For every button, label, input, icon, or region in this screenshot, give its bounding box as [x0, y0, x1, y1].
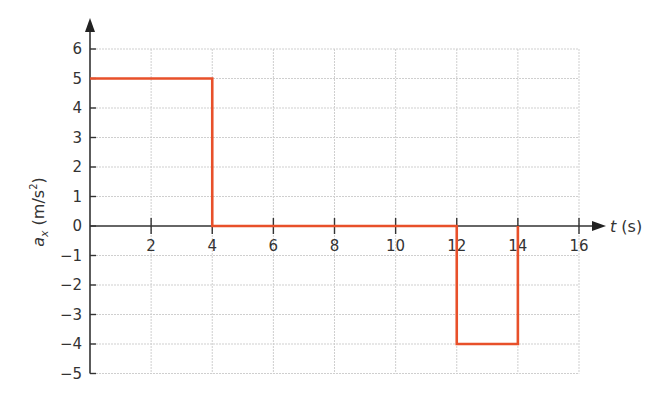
x-axis-arrow-icon [592, 221, 606, 231]
y-tick-label: 3 [72, 129, 82, 147]
x-tick-label: 6 [269, 237, 279, 255]
y-tick-label: −4 [60, 335, 82, 353]
y-tick-label: −5 [60, 365, 82, 383]
acceleration-time-chart: −5−4−3−2−10123456246810121416 t (s) ax (… [0, 0, 659, 402]
x-tick-label: 4 [207, 237, 217, 255]
y-axis-label: ax (m/s2) [28, 177, 51, 247]
y-tick-label: −1 [60, 247, 82, 265]
axes [85, 18, 606, 374]
data-series-a-x [90, 79, 518, 345]
x-tick-label: 2 [146, 237, 156, 255]
tick-labels: −5−4−3−2−10123456246810121416 [60, 40, 589, 383]
x-tick-label: 16 [569, 237, 588, 255]
y-tick-label: 5 [72, 70, 82, 88]
y-axis-arrow-icon [85, 18, 95, 32]
x-tick-label: 10 [386, 237, 405, 255]
y-tick-label: 6 [72, 40, 82, 58]
y-tick-label: 4 [72, 99, 82, 117]
y-tick-label: 2 [72, 158, 82, 176]
y-tick-label: 0 [72, 217, 82, 235]
x-axis-label: t (s) [610, 217, 642, 236]
x-tick-label: 8 [330, 237, 340, 255]
y-tick-label: −3 [60, 306, 82, 324]
y-tick-label: 1 [72, 188, 82, 206]
y-tick-label: −2 [60, 276, 82, 294]
grid-lines [90, 49, 579, 374]
